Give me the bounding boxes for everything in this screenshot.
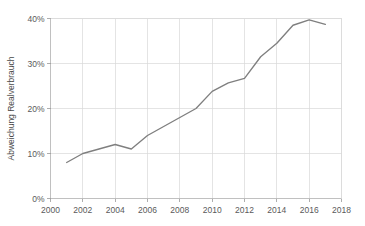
line-chart: 0%10%20%30%40% 2000200220042006200820102… [0,0,365,226]
chart-container: 0%10%20%30%40% 2000200220042006200820102… [0,0,365,226]
x-tick-label-2002: 2002 [73,205,92,215]
x-tick-label-2014: 2014 [267,205,286,215]
chart-background [0,0,365,226]
y-tick-label-20: 20% [27,104,44,114]
x-tick-label-2004: 2004 [106,205,125,215]
x-tick-label-2018: 2018 [332,205,351,215]
y-tick-label-0: 0% [32,194,45,204]
x-tick-label-2000: 2000 [41,205,60,215]
x-tick-label-2012: 2012 [235,205,254,215]
y-tick-label-30: 30% [27,59,44,69]
y-tick-label-10: 10% [27,149,44,159]
y-tick-label-40: 40% [27,14,44,24]
x-tick-label-2006: 2006 [138,205,157,215]
x-tick-label-2008: 2008 [170,205,189,215]
x-tick-label-2016: 2016 [300,205,319,215]
y-axis-title: Abweichung Realverbrauch [6,56,16,160]
x-tick-label-2010: 2010 [203,205,222,215]
